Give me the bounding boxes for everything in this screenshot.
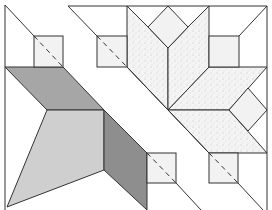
diag-2-solid bbox=[68, 6, 97, 36]
light-quad bbox=[7, 110, 104, 207]
dark-parallelogram bbox=[5, 67, 104, 110]
diag-1-solid bbox=[5, 5, 34, 36]
diag-top-right bbox=[239, 6, 267, 36]
diag-4-solid bbox=[238, 183, 263, 210]
dark-strip bbox=[104, 110, 147, 210]
diag-3-solid bbox=[176, 183, 201, 210]
small-square-5 bbox=[209, 36, 239, 67]
quilt-block-diagram bbox=[0, 0, 272, 210]
